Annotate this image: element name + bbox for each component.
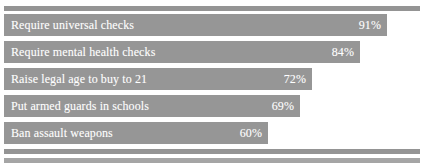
bar-require-mental-health-checks[interactable]: Require mental health checks 84% (4, 41, 360, 63)
bar-row: Raise legal age to buy to 21 72% (0, 68, 426, 90)
bar-require-universal-checks[interactable]: Require universal checks 91% (4, 14, 387, 36)
bar-row: Require mental health checks 84% (0, 41, 426, 63)
bar-row: Require universal checks 91% (0, 14, 426, 36)
top-divider-rule (4, 6, 420, 11)
bar-value: 72% (284, 68, 306, 90)
bar-label: Require universal checks (11, 14, 134, 36)
bar-label: Ban assault weapons (11, 122, 113, 144)
bottom-divider-rule-secondary (4, 158, 420, 163)
bar-ban-assault-weapons[interactable]: Ban assault weapons 60% (4, 122, 268, 144)
bar-label: Require mental health checks (11, 41, 155, 63)
bar-value: 91% (359, 14, 381, 36)
bar-value: 84% (332, 41, 354, 63)
bar-value: 60% (240, 122, 262, 144)
bar-chart: Require universal checks 91% Require men… (0, 0, 426, 168)
bar-raise-legal-age-to-buy-to-21[interactable]: Raise legal age to buy to 21 72% (4, 68, 312, 90)
bar-put-armed-guards-in-schools[interactable]: Put armed guards in schools 69% (4, 95, 300, 117)
bar-list: Require universal checks 91% Require men… (0, 14, 426, 149)
bar-value: 69% (272, 95, 294, 117)
bar-label: Raise legal age to buy to 21 (11, 68, 147, 90)
bar-label: Put armed guards in schools (11, 95, 149, 117)
bottom-divider-rule-primary (4, 149, 420, 154)
bar-row: Put armed guards in schools 69% (0, 95, 426, 117)
bar-row: Ban assault weapons 60% (0, 122, 426, 144)
